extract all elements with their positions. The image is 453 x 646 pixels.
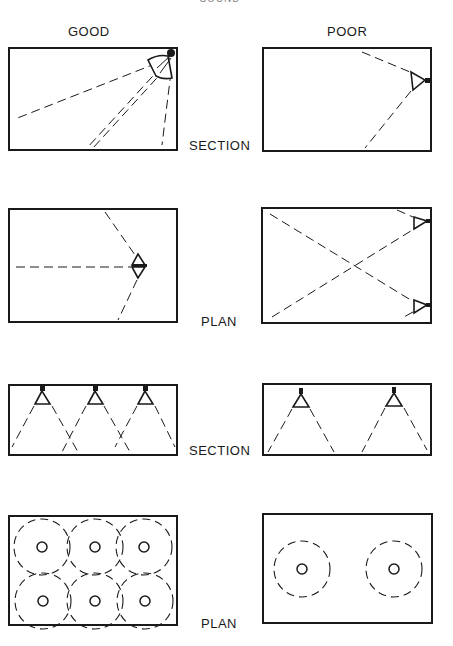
ceiling-speaker-icon bbox=[293, 388, 309, 407]
wall-speaker-icon bbox=[411, 72, 430, 90]
panel-good-section-2 bbox=[9, 385, 177, 455]
speaker-cluster-icon bbox=[148, 49, 175, 79]
panel-poor-section-1 bbox=[263, 48, 431, 151]
room-outline bbox=[9, 516, 177, 625]
coverage-circle bbox=[366, 541, 422, 597]
wall-speaker-icon bbox=[414, 300, 430, 313]
diagram-canvas bbox=[0, 0, 453, 646]
coverage-circle bbox=[67, 519, 123, 575]
coverage-circle bbox=[15, 573, 71, 629]
ceiling-speaker-icon bbox=[88, 386, 103, 404]
room-outline bbox=[9, 209, 177, 322]
panel-poor-plan-2 bbox=[263, 514, 432, 623]
ceiling-speaker-icon bbox=[35, 386, 50, 404]
coverage-circle bbox=[116, 519, 172, 575]
coverage-circle bbox=[274, 541, 330, 597]
panel-good-plan-2 bbox=[9, 516, 177, 629]
panel-poor-section-2 bbox=[263, 384, 431, 455]
room-outline bbox=[263, 48, 431, 151]
coverage-circle bbox=[67, 573, 123, 629]
coverage-circle bbox=[14, 519, 70, 575]
speaker-cluster-icon bbox=[132, 254, 147, 278]
room-outline bbox=[263, 384, 431, 455]
panel-good-section-1 bbox=[9, 48, 177, 150]
panel-good-plan-1 bbox=[9, 209, 177, 322]
coverage-circle bbox=[117, 573, 173, 629]
ceiling-speaker-icon bbox=[386, 387, 402, 406]
panel-poor-plan-1 bbox=[262, 208, 431, 323]
room-outline bbox=[263, 514, 432, 623]
ceiling-speaker-icon bbox=[138, 386, 153, 404]
wall-speaker-icon bbox=[414, 217, 430, 229]
room-outline bbox=[262, 208, 431, 323]
